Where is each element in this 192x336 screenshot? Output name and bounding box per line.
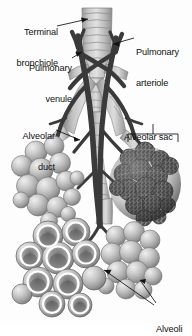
label-terminal-bronchiole-line1: Terminal	[2, 27, 58, 37]
label-pulmonary-venule-line1: Pulmonary	[2, 63, 72, 73]
label-alveoli: Alveoli	[156, 303, 192, 336]
label-pulmonary-arteriole-line1: Pulmonary	[136, 47, 192, 57]
label-alveolar-sac: Alveolar sac	[124, 111, 190, 163]
label-alveolar-duct-line1: Alveolar	[0, 131, 55, 141]
label-alveolar-duct-line2: duct	[0, 162, 55, 172]
label-alveolar-sac-line1: Alveolar sac	[124, 132, 190, 142]
label-pulmonary-arteriole-line2: arteriole	[136, 78, 192, 88]
label-pulmonary-arteriole: Pulmonary arteriole	[136, 26, 192, 109]
label-pulmonary-venule-line2: venule	[2, 94, 72, 104]
label-alveolar-duct: Alveolar duct	[0, 110, 55, 193]
label-alveoli-line1: Alveoli	[156, 324, 192, 334]
